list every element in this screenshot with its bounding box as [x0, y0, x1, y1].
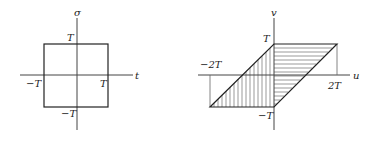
left-diagram: σ t T T −T −T	[20, 7, 140, 130]
label-bottom-minus-T: −T	[258, 110, 274, 121]
diagram-canvas: σ t T T −T −T	[0, 0, 375, 142]
v-axis-label: v	[271, 7, 277, 18]
u-axis-label: u	[353, 70, 359, 81]
label-right-T: T	[100, 78, 108, 89]
label-left-minus-T: −T	[26, 78, 42, 89]
label-plus-2T: 2T	[327, 80, 342, 91]
right-diagram: v u T −T −2T 2T	[198, 7, 359, 130]
label-minus-2T: −2T	[200, 59, 223, 70]
label-top-T: T	[67, 32, 75, 43]
label-top-T: T	[263, 33, 271, 44]
label-bottom-minus-T: −T	[61, 108, 77, 119]
sigma-axis-label: σ	[74, 7, 82, 18]
horizontal-hatching	[274, 48, 332, 104]
t-axis-label: t	[135, 70, 140, 81]
